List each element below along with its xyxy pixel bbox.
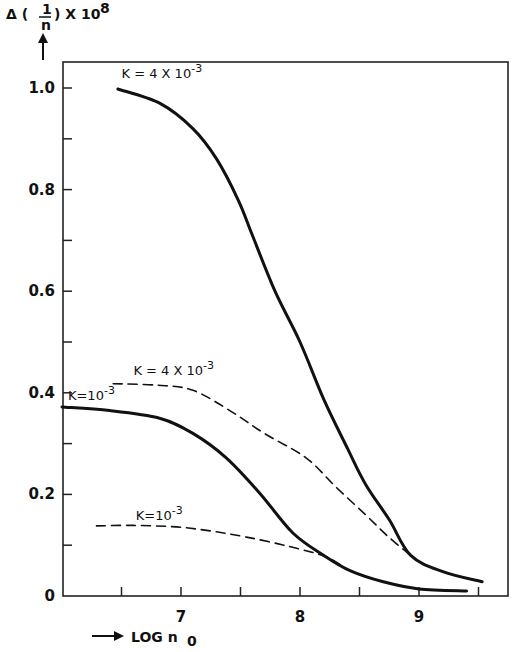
curve-label-2: K=10-3 (68, 384, 115, 403)
plot-frame (63, 62, 508, 596)
y-axis-title: Δ ( 1 n ) X 10 8 (6, 0, 110, 60)
axis-tick-labels: 78900.20.40.60.81.0 (28, 79, 424, 626)
y-axis-title-exponent: 8 (100, 0, 110, 16)
y-axis-title-denominator: n (41, 17, 51, 33)
curve-labels: K = 4 X 10-3K = 4 X 10-3K=10-3K=10-3 (68, 62, 214, 523)
dashed-curve-3 (97, 525, 372, 578)
x-axis-title-text: LOG n (131, 629, 178, 645)
x-tick-label: 8 (295, 608, 305, 626)
y-tick-label: 0.6 (28, 282, 55, 300)
right-arrow-icon (92, 631, 124, 641)
y-tick-label: 0 (45, 587, 55, 605)
solid-curve-2 (62, 407, 467, 591)
curve-label-1: K = 4 X 10-3 (133, 359, 214, 378)
curve-label-3: K=10-3 (136, 504, 183, 523)
y-axis-title-numerator: 1 (42, 1, 52, 17)
curve-label-0: K = 4 X 10-3 (122, 62, 203, 81)
dashed-curve-1 (113, 384, 411, 556)
axis-ticks (63, 88, 479, 596)
curves (62, 89, 482, 591)
y-tick-label: 0.4 (28, 384, 55, 402)
y-tick-label: 1.0 (28, 79, 55, 97)
chart: Δ ( 1 n ) X 10 8 78900.20.40.60.81.0 K =… (0, 0, 521, 652)
y-axis-title-delta: Δ ( (6, 6, 28, 22)
y-tick-label: 0.8 (28, 181, 55, 199)
up-arrow-icon (38, 33, 48, 60)
x-tick-label: 9 (414, 608, 424, 626)
y-tick-label: 0.2 (28, 485, 55, 503)
y-axis-title-suffix: ) X 10 (54, 6, 101, 22)
x-axis-title: LOG n 0 (92, 629, 197, 649)
x-axis-title-subscript: 0 (187, 633, 197, 649)
x-tick-label: 7 (176, 608, 186, 626)
